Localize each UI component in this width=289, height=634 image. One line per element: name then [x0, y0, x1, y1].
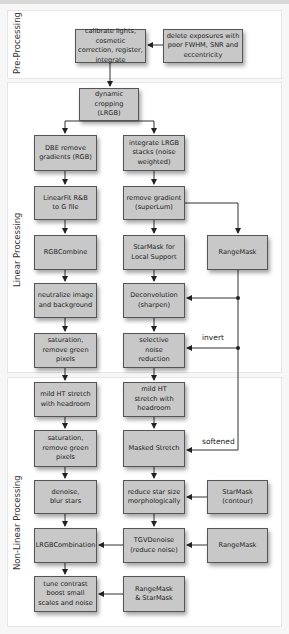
box-dbe: DBE remove gradients (RGB): [34, 135, 97, 171]
label-non-linear-processing: Non-Linear Processing: [12, 475, 22, 570]
box-denoise: denoise, blur stars: [34, 480, 97, 514]
box-remove-gradient: remove gradient (superLum): [123, 186, 185, 220]
box-selective-noise: selective noise reduction: [123, 333, 185, 368]
label-invert: invert: [202, 333, 224, 342]
label-linear-processing: Linear Processing: [12, 212, 22, 287]
box-starmask-contour: StarMask (contour): [207, 480, 268, 514]
box-masked-stretch: Masked Stretch: [123, 430, 185, 467]
box-saturation-2: saturation, remove green pixels: [34, 430, 97, 467]
box-integrate: integrate LRGB stacks (noise weighted): [123, 135, 185, 171]
box-deconvolution: Deconvolution (sharpen): [123, 283, 185, 318]
box-calibrate: calibrate lights, cosmetic correction, r…: [75, 29, 146, 63]
box-rangemask-2: RangeMask: [207, 528, 268, 563]
box-linearfit: LinearFit R&B to G file: [34, 186, 97, 220]
box-tune-contrast: tune contrast boost small scales and noi…: [34, 576, 97, 612]
label-softened: softened: [202, 437, 235, 446]
box-neutralize: neutralize image and background: [34, 283, 97, 318]
box-mild-ht-right: mild HT stretch with headroom: [123, 382, 185, 417]
label-pre-processing: Pre-Processing: [12, 12, 22, 74]
box-lrgbcombination: LRGBCombination: [34, 528, 97, 563]
box-rangemask-1: RangeMask: [207, 235, 268, 270]
box-rangemask-starmask: RangeMask & StarMask: [123, 576, 185, 612]
box-starmask-local: StarMask for Local Support: [123, 235, 185, 270]
top-bar: [0, 0, 289, 4]
box-tgvdenoise: TGVDenoise (reduce noise): [123, 528, 185, 563]
panel-linear-processing: [7, 82, 282, 373]
box-reduce-star: reduce star size morphologically: [123, 480, 185, 514]
box-mild-ht-left: mild HT stretch with headroom: [34, 382, 97, 417]
box-saturation-1: saturation, remove green pixels: [34, 333, 97, 368]
box-dynamic-cropping: dynamic cropping (LRGB): [79, 88, 139, 121]
box-rgbcombine: RGBCombine: [34, 235, 97, 270]
box-delete-exposures: delete exposures with poor FWHM, SNR and…: [163, 29, 243, 63]
